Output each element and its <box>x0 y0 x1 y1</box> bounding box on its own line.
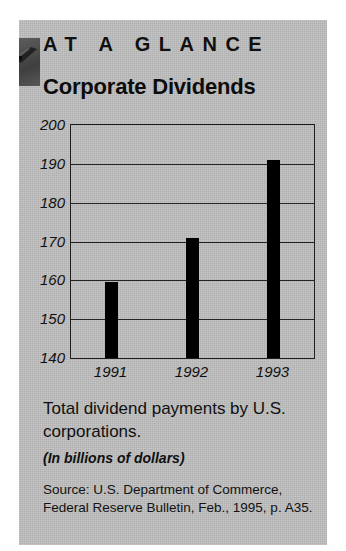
at-a-glance-card: AT A GLANCE Corporate Dividends 20019018… <box>19 20 327 545</box>
chart-source-note: Source: U.S. Department of Commerce, Fed… <box>43 481 318 516</box>
chart-units-note: (In billions of dollars) <box>43 450 185 466</box>
dog-eared-page-icon <box>19 38 40 86</box>
bar <box>105 282 118 358</box>
y-axis-tick-label: 150 <box>40 310 65 327</box>
bar <box>267 160 280 358</box>
y-axis-tick-label: 160 <box>40 271 65 288</box>
y-axis-tick-label: 190 <box>40 154 65 171</box>
plot-area <box>70 124 315 359</box>
y-axis-tick-label: 140 <box>40 349 65 366</box>
corner-graphic <box>19 46 40 64</box>
bar <box>186 238 199 358</box>
y-axis-tick-label: 200 <box>40 116 65 133</box>
y-axis-tick-label: 170 <box>40 232 65 249</box>
y-axis-tick-label: 180 <box>40 193 65 210</box>
x-axis-tick-label: 1991 <box>94 363 127 380</box>
bar-chart: 200190180170160150140 199119921993 <box>19 116 327 366</box>
page-title: Corporate Dividends <box>43 74 256 100</box>
page-eyebrow: AT A GLANCE <box>43 33 270 56</box>
chart-caption: Total dividend payments by U.S. corporat… <box>43 397 311 443</box>
x-axis-tick-label: 1993 <box>256 363 289 380</box>
x-axis-tick-label: 1992 <box>175 363 208 380</box>
